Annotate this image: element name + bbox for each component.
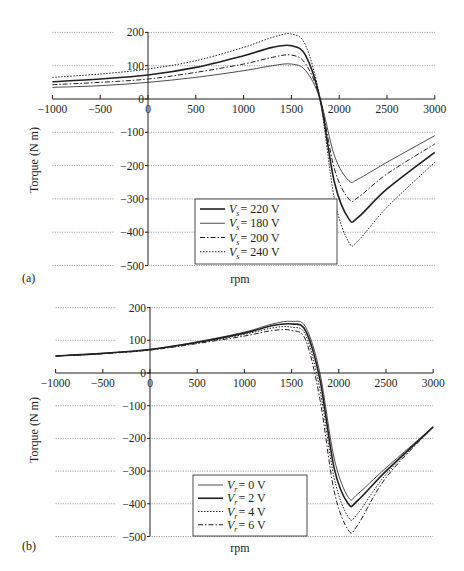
- y-tick-label: −100: [122, 400, 146, 412]
- x-tick-label: 0: [147, 377, 153, 389]
- legend: Vs= 220 VVs= 180 VVs= 200 VVs= 240 V: [195, 199, 337, 264]
- y-axis-title: Torque (N m): [27, 397, 41, 463]
- x-axis-title: rpm: [230, 541, 250, 555]
- x-tick-label: 1500: [280, 103, 303, 115]
- x-tick-label: 2500: [375, 377, 398, 389]
- y-tick-label: −100: [120, 126, 144, 138]
- y-tick-label: −500: [120, 260, 144, 272]
- series-line: [52, 55, 434, 202]
- x-tick-label: 1000: [232, 103, 255, 115]
- x-tick-label: 3000: [423, 103, 446, 115]
- panel-tag: (b): [22, 539, 36, 553]
- x-tick-label: −1000: [38, 103, 68, 115]
- y-axis-title: Torque (N m): [27, 127, 41, 193]
- y-tick-label: 200: [127, 26, 145, 38]
- y-tick-label: −400: [122, 498, 146, 510]
- y-tick-label: −500: [122, 531, 146, 543]
- x-tick-label: 500: [189, 377, 207, 389]
- x-tick-label: −1000: [41, 377, 71, 389]
- x-tick-label: 0: [145, 103, 151, 115]
- x-tick-label: −500: [91, 377, 115, 389]
- x-tick-label: 1000: [233, 377, 256, 389]
- y-tick-label: −300: [122, 465, 146, 477]
- x-tick-label: 1500: [280, 377, 303, 389]
- y-tick-label: −200: [122, 432, 146, 444]
- x-tick-label: 2500: [376, 103, 399, 115]
- series-line: [52, 45, 434, 222]
- y-tick-label: 200: [129, 302, 147, 314]
- y-tick-label: −400: [120, 226, 144, 238]
- x-tick-label: 2000: [328, 103, 351, 115]
- y-tick-label: −300: [120, 193, 144, 205]
- x-axis-title: rpm: [230, 272, 250, 286]
- x-tick-label: 2000: [327, 377, 350, 389]
- chart-panel-a: 2001000−100−200−300−400−500−1000−5000500…: [22, 25, 447, 286]
- x-tick-label: 3000: [422, 377, 445, 389]
- x-tick-label: −500: [88, 103, 112, 115]
- chart-panel-b: 2001000−100−200−300−400−500−1000−5000500…: [22, 301, 445, 555]
- figure-two-torque-speed-panels: 2001000−100−200−300−400−500−1000−5000500…: [0, 0, 464, 571]
- panel-tag: (a): [22, 271, 35, 285]
- legend: Vr= 0 VVr= 2 VVr= 4 VVr= 6 V: [193, 475, 307, 536]
- y-tick-label: 100: [129, 334, 147, 346]
- legend-entry: Vr= 6 V: [227, 518, 266, 534]
- y-tick-label: 100: [127, 60, 145, 72]
- series-line: [56, 321, 434, 500]
- y-tick-label: −200: [120, 160, 144, 172]
- x-tick-label: 500: [187, 103, 205, 115]
